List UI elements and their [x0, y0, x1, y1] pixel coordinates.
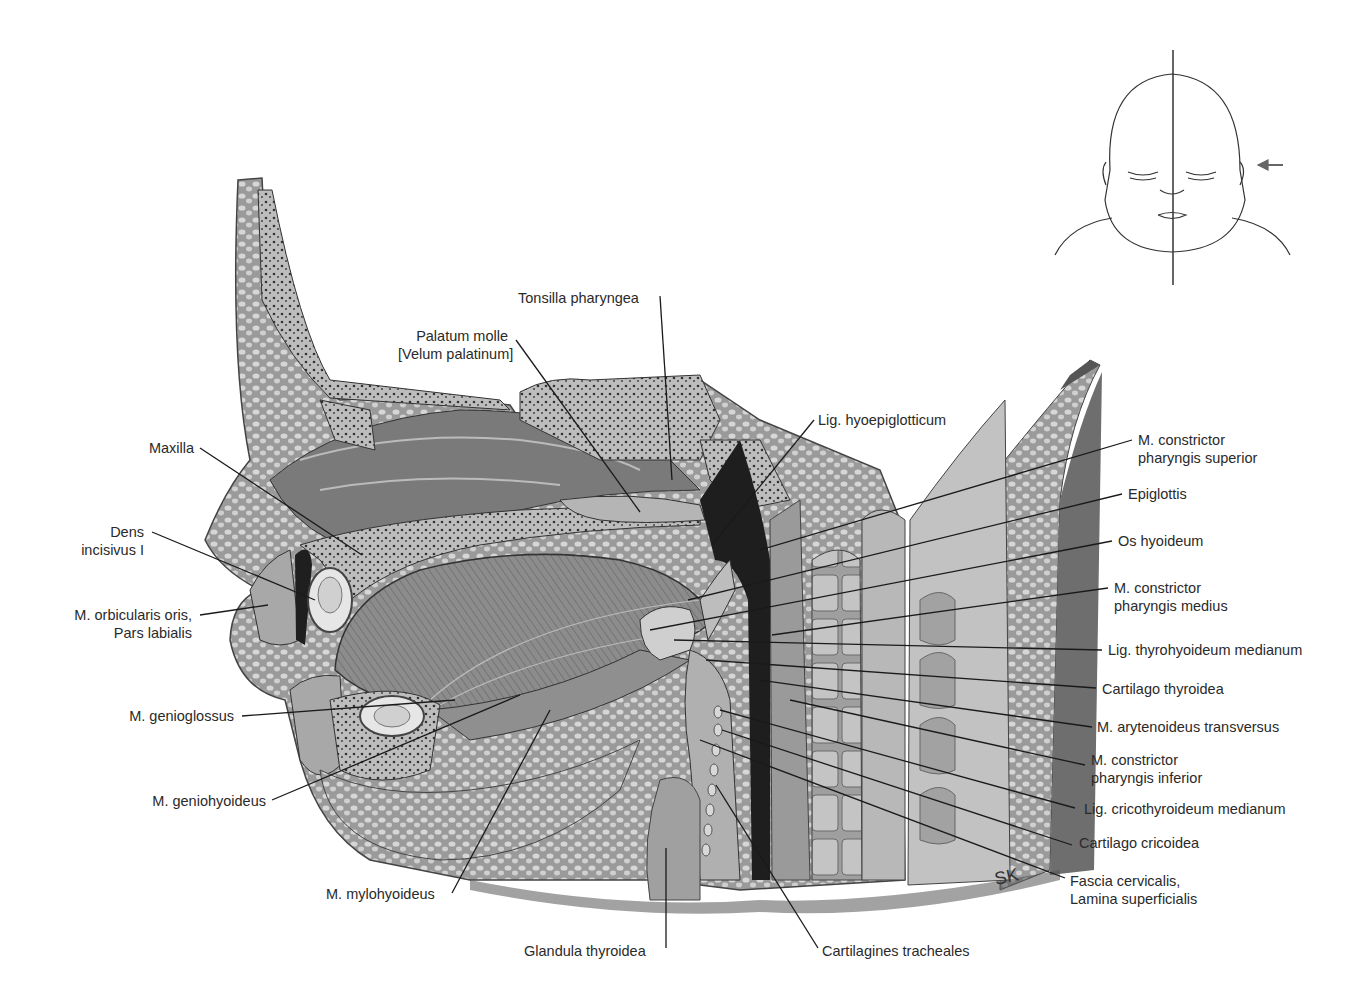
label-glandula-thyroidea: Glandula thyroidea [524, 942, 646, 960]
label-cartilago-cricoidea: Cartilago cricoidea [1079, 834, 1199, 852]
label-constrictor-medius: M. constrictor pharyngis medius [1114, 579, 1228, 615]
label-lig-thyrohyoideum: Lig. thyrohyoideum medianum [1108, 641, 1302, 659]
label-cartilagines-tracheales: Cartilagines tracheales [822, 942, 970, 960]
label-constrictor-inferior: M. constrictor pharyngis inferior [1091, 751, 1202, 787]
label-mylohyoideus: M. mylohyoideus [326, 885, 435, 903]
label-dens-incisivus: Dens incisivus I [50, 523, 144, 559]
label-cartilago-thyroidea: Cartilago thyroidea [1102, 680, 1224, 698]
anatomy-illustration: SK [0, 0, 1371, 1006]
orientation-inset-icon [1055, 50, 1290, 285]
label-lig-cricothyroideum: Lig. cricothyroideum medianum [1084, 800, 1285, 818]
label-arytenoideus-transversus: M. arytenoideus transversus [1097, 718, 1279, 736]
label-geniohyoideus: M. geniohyoideus [60, 792, 266, 810]
label-os-hyoideum: Os hyoideum [1118, 532, 1203, 550]
label-genioglossus: M. genioglossus [60, 707, 234, 725]
label-orbicularis-oris: M. orbicularis oris, Pars labialis [20, 606, 192, 642]
label-tonsilla-pharyngea: Tonsilla pharyngea [518, 289, 639, 307]
label-fascia-cervicalis: Fascia cervicalis, Lamina superficialis [1070, 872, 1197, 908]
label-maxilla: Maxilla [100, 439, 194, 457]
label-lig-hyoepiglotticum: Lig. hyoepiglotticum [818, 411, 946, 429]
label-epiglottis: Epiglottis [1128, 485, 1187, 503]
label-constrictor-superior: M. constrictor pharyngis superior [1138, 431, 1257, 467]
label-palatum-molle: Palatum molle [Velum palatinum] [398, 327, 508, 363]
